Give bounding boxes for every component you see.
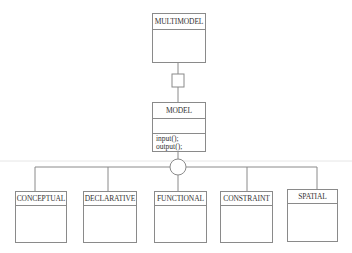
method-output: output(); xyxy=(156,143,205,151)
class-declarative[interactable]: DECLARATIVE xyxy=(83,191,137,243)
methods-section: input(); output(); xyxy=(153,134,205,151)
class-name: CONSTRAINT xyxy=(221,192,272,206)
class-multimodel[interactable]: MULTIMODEL xyxy=(152,13,206,63)
class-name: FUNCTIONAL xyxy=(155,192,206,206)
class-conceptual[interactable]: CONCEPTUAL xyxy=(15,191,67,243)
attributes-section xyxy=(153,119,205,134)
class-constraint[interactable]: CONSTRAINT xyxy=(220,191,273,243)
class-spatial[interactable]: SPATIAL xyxy=(287,189,338,242)
class-model[interactable]: MODEL input(); output(); xyxy=(152,102,206,152)
class-name: MULTIMODEL xyxy=(153,14,205,30)
class-name: CONCEPTUAL xyxy=(16,192,66,206)
class-name: DECLARATIVE xyxy=(84,192,136,206)
class-name: MODEL xyxy=(153,103,205,119)
class-name: SPATIAL xyxy=(288,190,337,204)
generalization-circle-icon xyxy=(170,159,186,175)
class-functional[interactable]: FUNCTIONAL xyxy=(154,191,207,243)
aggregation-square-icon xyxy=(172,74,184,87)
